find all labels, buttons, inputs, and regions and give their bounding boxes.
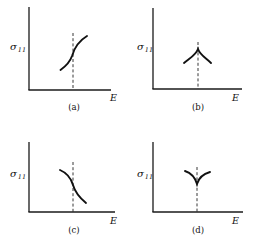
x-axis-label: E xyxy=(109,215,117,226)
x-axis-label: E xyxy=(231,92,239,103)
panel-a: σ11 E (a) xyxy=(10,7,117,112)
figure-canvas: σ11 E (a) σ11 E (b) σ11 E (c) σ11 E (d) xyxy=(0,0,259,244)
y-axis-label: σ11 xyxy=(137,168,153,181)
panel-c: σ11 E (c) xyxy=(10,142,117,235)
y-axis-label: σ11 xyxy=(137,41,153,54)
sigma-curve xyxy=(184,49,211,63)
panel-caption: (d) xyxy=(192,225,204,235)
panel-caption: (c) xyxy=(68,225,79,235)
x-axis-label: E xyxy=(109,92,117,103)
sigma-curve xyxy=(61,36,88,70)
sigma-curve xyxy=(185,171,210,184)
panel-caption: (b) xyxy=(192,102,204,112)
panel-caption: (a) xyxy=(68,102,80,112)
panel-b: σ11 E (b) xyxy=(137,8,242,112)
panel-d: σ11 E (d) xyxy=(137,142,243,235)
x-axis-label: E xyxy=(231,215,239,226)
y-axis-label: σ11 xyxy=(10,41,26,54)
y-axis-label: σ11 xyxy=(10,168,26,181)
